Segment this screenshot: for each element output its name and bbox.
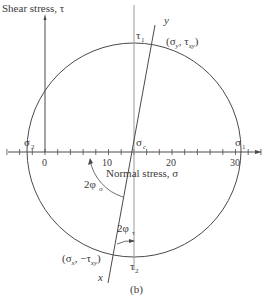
svg-text:(σx, −τxy): (σx, −τxy) [62, 252, 101, 267]
svg-text:2φ: 2φ [84, 178, 96, 190]
x-axis-letter: x [97, 271, 103, 283]
shear-axis-label: Shear stress, τ [2, 2, 65, 14]
xy-diameter-line [108, 25, 155, 283]
angle-tau-label: 2φ τ [117, 222, 135, 237]
svg-text:2φ: 2φ [117, 222, 129, 234]
svg-text:σ: σ [136, 136, 142, 148]
svg-text:1: 1 [242, 143, 246, 151]
normal-axis-label: Normal stress, σ [106, 167, 178, 179]
y-axis-letter: y [163, 14, 169, 26]
svg-text:τ: τ [132, 229, 135, 237]
point-y-label: (σy, τxy) [166, 35, 199, 50]
sigma2-label: σ 2 [24, 136, 35, 151]
tick-label-30: 30 [230, 157, 240, 168]
figure-caption: (b) [130, 283, 143, 296]
svg-text:2: 2 [135, 267, 139, 275]
svg-text:σ: σ [24, 136, 30, 148]
angle-sigma-arrow-icon [88, 158, 93, 165]
svg-text:2: 2 [31, 143, 35, 151]
tick-label-0: 0 [42, 157, 47, 168]
svg-text:1: 1 [141, 36, 145, 44]
point-x-label: (σx, −τxy) [62, 252, 101, 267]
angle-sigma-label: 2φ σ [84, 178, 103, 193]
svg-text:(σy, τxy): (σy, τxy) [166, 35, 199, 50]
svg-text:σ: σ [99, 185, 103, 193]
sigma-c-label: σ c [136, 136, 147, 151]
svg-text:σ: σ [235, 136, 241, 148]
mohr-circle-diagram: Shear stress, τ 0 10 20 30 Normal stress… [0, 0, 270, 298]
tau1-label: τ 1 [136, 29, 145, 44]
shear-axis-arrow-icon [44, 14, 47, 20]
